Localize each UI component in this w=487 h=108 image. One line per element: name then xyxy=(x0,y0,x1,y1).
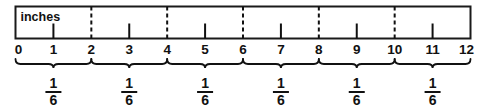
brace xyxy=(319,59,395,68)
fraction-denominator: 6 xyxy=(429,92,437,108)
brace xyxy=(243,59,319,68)
brace xyxy=(91,59,167,68)
tick-label: 0 xyxy=(15,42,23,57)
tick-label: 8 xyxy=(315,42,323,57)
tick-label: 2 xyxy=(88,42,96,57)
tick-label: 10 xyxy=(387,42,402,57)
fraction-numerator: 1 xyxy=(125,75,133,91)
tick-label: 1 xyxy=(50,42,58,57)
fraction-denominator: 6 xyxy=(125,92,133,108)
fraction-numerator: 1 xyxy=(277,75,285,91)
fraction-denominator: 6 xyxy=(353,92,361,108)
fraction-numerator: 1 xyxy=(50,75,58,91)
ruler-diagram-canvas: inches0123456789101112161616161616 xyxy=(0,0,487,108)
tick-label: 9 xyxy=(353,42,361,57)
tick-label: 6 xyxy=(239,42,247,57)
fraction-numerator: 1 xyxy=(353,75,361,91)
tick-label: 12 xyxy=(459,42,474,57)
brace xyxy=(395,59,471,68)
tick-label: 7 xyxy=(277,42,285,57)
fraction-numerator: 1 xyxy=(201,75,209,91)
fraction-numerator: 1 xyxy=(429,75,437,91)
tick-label: 3 xyxy=(125,42,133,57)
unit-label: inches xyxy=(21,10,61,24)
tick-label: 11 xyxy=(425,42,440,57)
tick-label: 5 xyxy=(201,42,209,57)
fraction-denominator: 6 xyxy=(50,92,58,108)
brace xyxy=(167,59,243,68)
fraction-denominator: 6 xyxy=(277,92,285,108)
tick-label: 4 xyxy=(163,42,171,57)
fraction-denominator: 6 xyxy=(201,92,209,108)
brace xyxy=(16,59,92,68)
ruler-fraction-diagram: inches0123456789101112161616161616 xyxy=(0,0,487,108)
